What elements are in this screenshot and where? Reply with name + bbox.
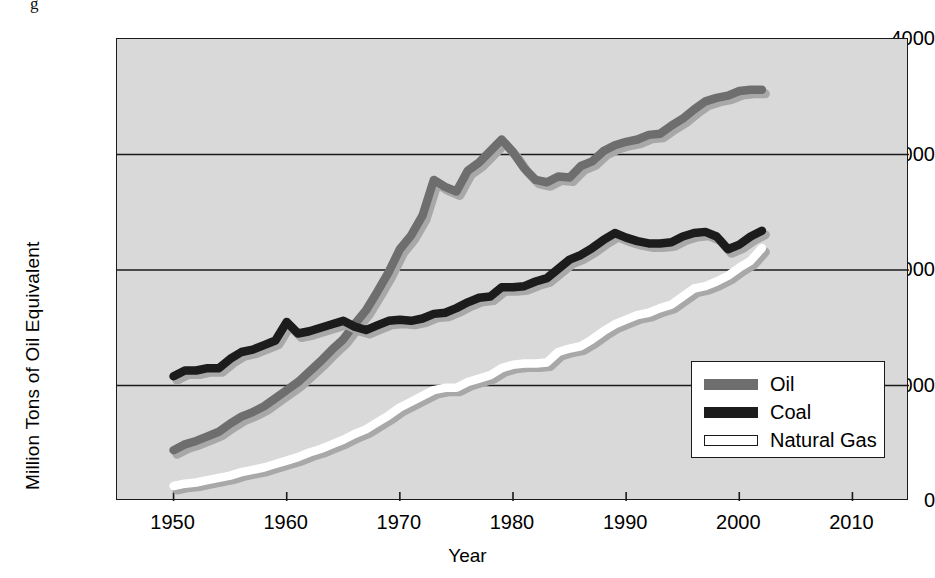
x-tick-label: 1990 [585, 511, 665, 534]
x-axis-label: Year [0, 545, 935, 567]
y-axis-label: Million Tons of Oil Equivalent [22, 241, 44, 490]
legend-item-oil[interactable]: Oil [704, 370, 794, 398]
series-oil [174, 90, 766, 454]
legend-item-natural-gas[interactable]: Natural Gas [704, 426, 877, 454]
series-shadow [177, 252, 765, 490]
legend-swatch-natural-gas [704, 435, 758, 446]
x-tick-label: 1960 [246, 511, 326, 534]
legend: OilCoalNatural Gas [691, 361, 885, 458]
x-tick-label: 1980 [472, 511, 552, 534]
x-tick-label: 1950 [133, 511, 213, 534]
top-text-fragment: g [30, 0, 39, 14]
x-tick-label: 1970 [359, 511, 439, 534]
legend-swatch-coal [704, 407, 758, 418]
energy-consumption-chart: g Million Tons of Oil Equivalent Year 01… [0, 0, 935, 578]
legend-swatch-oil [704, 379, 758, 390]
legend-item-coal[interactable]: Coal [704, 398, 811, 426]
series-natural-gas [174, 248, 766, 490]
series-shadow [177, 94, 765, 454]
legend-label: Natural Gas [770, 430, 877, 450]
legend-label: Oil [770, 374, 794, 394]
series-line [174, 248, 762, 486]
x-tick-label: 2010 [811, 511, 891, 534]
x-tick-label: 2000 [698, 511, 778, 534]
legend-label: Coal [770, 402, 811, 422]
